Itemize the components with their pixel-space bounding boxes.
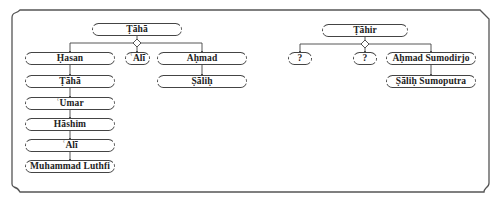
marriage-diamond-icon [133, 39, 141, 47]
node-label: ʿAlī [62, 141, 78, 151]
node-label: ? [363, 54, 368, 64]
node-umar[interactable]: ʿUmar [25, 97, 115, 110]
node-label: Ṭāhā [59, 77, 81, 87]
node-muhammad-luthfi[interactable]: Muhammad Luthfi [25, 160, 115, 173]
node-ahmad[interactable]: Aḥmad [157, 52, 247, 65]
node-tahir-root[interactable]: Ṭāhir [322, 24, 408, 37]
node-taha-2[interactable]: Ṭāhā [25, 75, 115, 88]
node-ali-2[interactable]: ʿAlī [25, 139, 115, 152]
node-label: Ṣāliḥ Sumoputra [396, 77, 466, 87]
node-ahmad-sumodirjo[interactable]: Aḥmad Sumodirjo [386, 52, 476, 65]
node-label: Hāshim [54, 120, 86, 130]
node-label: Aḥmad Sumodirjo [392, 54, 469, 64]
node-label: ? [298, 54, 303, 64]
node-label: Ḥasan [57, 54, 83, 64]
node-unknown-1[interactable]: ? [288, 52, 312, 65]
node-salih[interactable]: Ṣāliḥ [157, 75, 247, 88]
marriage-diamond-icon [361, 40, 369, 48]
node-label: ʿAlī [130, 54, 146, 64]
node-hasan[interactable]: Ḥasan [25, 52, 115, 65]
node-ali-child[interactable]: ʿAlī [125, 52, 150, 65]
node-unknown-2[interactable]: ? [353, 52, 377, 65]
node-label: Muhammad Luthfi [30, 162, 110, 172]
node-label: Aḥmad [187, 54, 218, 64]
node-label: Ṣāliḥ [191, 77, 212, 87]
node-taha-root[interactable]: Ṭāhā [92, 23, 182, 36]
node-label: ʿUmar [56, 99, 83, 109]
node-label: Ṭāhir [353, 26, 377, 36]
node-salih-sumoputra[interactable]: Ṣāliḥ Sumoputra [386, 75, 476, 88]
node-label: Ṭāhā [126, 25, 148, 35]
node-hashim[interactable]: Hāshim [25, 118, 115, 131]
